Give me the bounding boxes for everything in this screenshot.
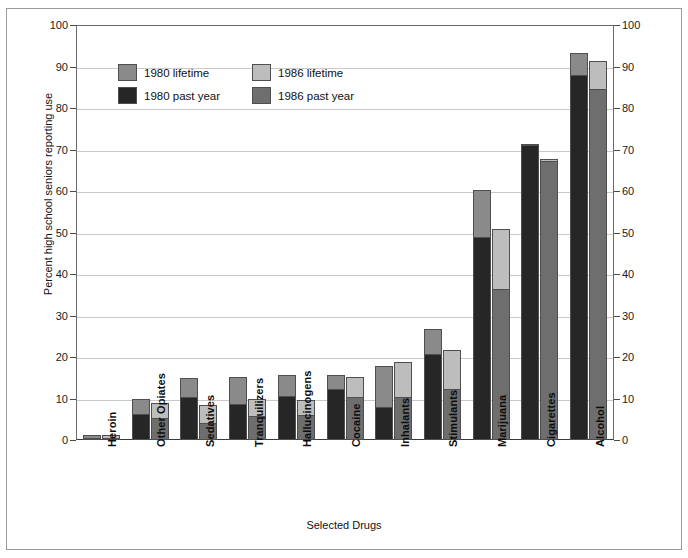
bar-group [375, 25, 412, 440]
bar-segment-past-year [473, 237, 491, 440]
y-tick-mark-right [614, 150, 620, 151]
legend-label: 1980 lifetime [144, 67, 209, 79]
y-tick-label-right: 0 [622, 435, 662, 446]
x-category-label: Alcohol [594, 406, 606, 447]
y-tick-mark-left [70, 108, 76, 109]
y-tick-mark-left [70, 357, 76, 358]
bar-segment-past-year [424, 354, 442, 440]
y-tick-label-right: 70 [622, 145, 662, 156]
y-tick-label-right: 100 [622, 20, 662, 31]
y-tick-label-left: 80 [28, 103, 68, 114]
y-tick-label-right: 80 [622, 103, 662, 114]
y-tick-label-right: 10 [622, 394, 662, 405]
legend-swatch-icon [252, 64, 271, 81]
x-category-label: Cocaine [350, 404, 362, 448]
y-tick-mark-right [614, 440, 620, 441]
legend-label: 1980 past year [144, 90, 220, 102]
bar-segment-past-year [589, 89, 607, 440]
x-category-label: Heroin [106, 412, 118, 447]
y-tick-mark-right [614, 233, 620, 234]
bar-1980 [327, 375, 345, 440]
y-tick-label-left: 50 [28, 228, 68, 239]
bar-group [521, 25, 558, 440]
bar-1980 [132, 399, 150, 440]
bar-1980 [83, 435, 101, 440]
y-tick-mark-left [70, 316, 76, 317]
bar-segment-past-year [83, 438, 101, 440]
legend-item: 1986 past year [252, 87, 354, 104]
y-tick-label-left: 100 [28, 20, 68, 31]
legend-label: 1986 past year [278, 90, 354, 102]
chart-page: Percent high school seniors reporting us… [0, 0, 688, 558]
x-category-label: Hallucinogens [301, 371, 313, 447]
x-category-label: Stimulants [447, 390, 459, 447]
y-tick-label-left: 40 [28, 269, 68, 280]
y-tick-label-left: 20 [28, 352, 68, 363]
bar-1980 [278, 375, 296, 440]
bar-segment-past-year [570, 75, 588, 440]
bar-group [424, 25, 461, 440]
y-tick-label-right: 40 [622, 269, 662, 280]
legend-swatch-icon [118, 64, 137, 81]
y-tick-label-right: 20 [622, 352, 662, 363]
bar-1980 [229, 377, 247, 440]
y-tick-mark-right [614, 399, 620, 400]
bar-segment-past-year [327, 389, 345, 440]
bar-group [83, 25, 120, 440]
x-category-label: Tranquilizers [253, 378, 265, 447]
y-tick-label-left: 90 [28, 62, 68, 73]
x-axis-title: Selected Drugs [0, 519, 688, 531]
legend-item: 1986 lifetime [252, 64, 343, 81]
bar-segment-past-year [180, 397, 198, 440]
bar-1980 [180, 378, 198, 440]
y-tick-mark-left [70, 399, 76, 400]
y-tick-mark-right [614, 25, 620, 26]
plot-wrapper: Percent high school seniors reporting us… [0, 0, 688, 558]
x-category-label: Inhalants [399, 398, 411, 447]
x-category-label: Other Opiates [155, 373, 167, 447]
y-tick-label-left: 60 [28, 186, 68, 197]
y-tick-mark-right [614, 108, 620, 109]
bar-segment-past-year [375, 407, 393, 440]
y-tick-label-right: 90 [622, 62, 662, 73]
bar-1980 [424, 329, 442, 440]
y-tick-mark-right [614, 191, 620, 192]
bar-1980 [473, 190, 491, 440]
bar-1986 [589, 61, 607, 440]
y-tick-label-right: 60 [622, 186, 662, 197]
legend-label: 1986 lifetime [278, 67, 343, 79]
y-tick-mark-right [614, 274, 620, 275]
y-tick-label-left: 0 [28, 435, 68, 446]
y-tick-label-right: 30 [622, 311, 662, 322]
bar-group [570, 25, 607, 440]
bar-1980 [375, 366, 393, 440]
y-tick-mark-left [70, 233, 76, 234]
y-tick-mark-left [70, 150, 76, 151]
bar-segment-past-year [132, 414, 150, 440]
y-tick-label-left: 70 [28, 145, 68, 156]
y-tick-mark-left [70, 67, 76, 68]
y-tick-mark-right [614, 357, 620, 358]
y-tick-mark-right [614, 67, 620, 68]
bar-group [473, 25, 510, 440]
legend-item: 1980 lifetime [118, 64, 209, 81]
bar-1980 [570, 53, 588, 440]
x-category-label: Cigarettes [545, 392, 557, 447]
legend-swatch-icon [118, 87, 137, 104]
chart-legend: 1980 lifetime1986 lifetime1980 past year… [118, 64, 370, 106]
y-tick-label-left: 10 [28, 394, 68, 405]
y-tick-label-right: 50 [622, 228, 662, 239]
y-tick-mark-right [614, 316, 620, 317]
y-tick-mark-left [70, 191, 76, 192]
bar-segment-past-year [229, 404, 247, 440]
y-tick-mark-left [70, 25, 76, 26]
bar-segment-past-year [278, 396, 296, 440]
bar-1980 [521, 144, 539, 440]
legend-item: 1980 past year [118, 87, 220, 104]
y-tick-mark-left [70, 440, 76, 441]
bar-segment-past-year [521, 145, 539, 440]
y-tick-mark-left [70, 274, 76, 275]
legend-swatch-icon [252, 87, 271, 104]
x-category-label: Sedatives [204, 395, 216, 447]
x-category-label: Marijuana [496, 395, 508, 447]
